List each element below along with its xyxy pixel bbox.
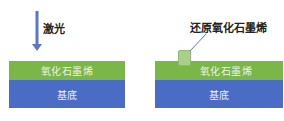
right-panel-reduced-result: 氧化石墨烯 基底 还原氧化石墨烯: [0, 0, 284, 121]
reduced-graphene-oxide-label: 还原氧化石墨烯: [190, 19, 267, 35]
